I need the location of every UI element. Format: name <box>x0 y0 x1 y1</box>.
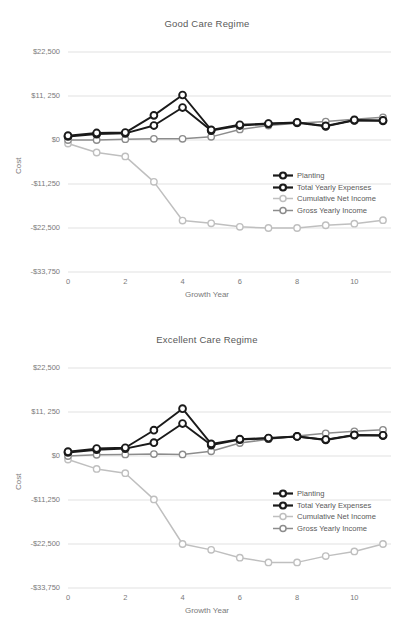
y-tick-label: $0 <box>6 135 60 144</box>
chart-panel-excellent-care: Excellent Care Regime Cost Growth Year P… <box>0 316 414 632</box>
legend-item-label: Planting <box>297 488 324 499</box>
data-point <box>265 120 272 127</box>
data-point <box>151 136 157 142</box>
data-point <box>208 220 214 226</box>
data-point <box>151 451 157 457</box>
data-point <box>122 470 128 476</box>
data-point <box>236 121 243 128</box>
legend-line-marker-icon <box>272 488 294 499</box>
data-point <box>322 436 329 443</box>
data-point <box>351 548 357 554</box>
x-tick-label: 4 <box>163 277 203 286</box>
data-point <box>265 225 271 231</box>
legend-item-label: Gross Yearly Income <box>297 523 367 534</box>
data-point <box>294 119 301 126</box>
data-point <box>151 439 158 446</box>
x-tick-label: 8 <box>277 277 317 286</box>
data-point <box>179 420 186 427</box>
data-point <box>380 217 386 223</box>
data-point <box>351 431 358 438</box>
x-tick-label: 0 <box>48 277 88 286</box>
data-point <box>208 126 215 133</box>
legend-item[interactable]: Planting <box>272 488 376 500</box>
y-tick-label: -$33,750 <box>6 583 60 592</box>
data-point <box>294 559 300 565</box>
data-point <box>323 222 329 228</box>
legend-item-label: Total Yearly Expenses <box>297 500 371 511</box>
data-point <box>265 435 272 442</box>
legend-item-label: Planting <box>297 170 324 181</box>
data-point <box>151 122 158 129</box>
legend-item[interactable]: Gross Yearly Income <box>272 205 376 217</box>
y-tick-label: $11, 250 <box>6 407 60 416</box>
y-tick-label: -$22,500 <box>6 223 60 232</box>
legend-item[interactable]: Cumulative Net Income <box>272 511 376 523</box>
legend-item[interactable]: Total Yearly Expenses <box>272 182 376 194</box>
data-point <box>179 451 185 457</box>
data-point <box>65 132 72 139</box>
legend-item-label: Total Yearly Expenses <box>297 182 371 193</box>
x-tick-label: 0 <box>48 593 88 602</box>
plot-area <box>0 0 414 316</box>
y-tick-label: -$33,750 <box>6 267 60 276</box>
plot-area <box>0 316 414 632</box>
data-point <box>208 547 214 553</box>
y-tick-label: -$22,500 <box>6 539 60 548</box>
data-point <box>351 117 358 124</box>
x-tick-label: 2 <box>105 593 145 602</box>
legend-item-label: Cumulative Net Income <box>297 511 376 522</box>
x-tick-label: 10 <box>334 593 374 602</box>
legend-item[interactable]: Planting <box>272 170 376 182</box>
legend-line-marker-icon <box>272 193 294 204</box>
chart-panel-good-care: Good Care Regime Cost Growth Year Planti… <box>0 0 414 316</box>
y-tick-label: $22,500 <box>6 47 60 56</box>
chart-legend: PlantingTotal Yearly ExpensesCumulative … <box>272 488 376 534</box>
legend-line-marker-icon <box>272 205 294 216</box>
data-point <box>122 153 128 159</box>
y-tick-label: $22,500 <box>6 363 60 372</box>
data-point <box>265 559 271 565</box>
series-total-yearly-expenses <box>65 104 387 140</box>
data-point <box>351 221 357 227</box>
data-point <box>65 448 72 455</box>
x-tick-label: 2 <box>105 277 145 286</box>
legend-item-label: Cumulative Net Income <box>297 193 376 204</box>
data-point <box>93 445 100 452</box>
x-tick-label: 4 <box>163 593 203 602</box>
data-point <box>179 104 186 111</box>
data-point <box>151 112 158 119</box>
data-point <box>380 541 386 547</box>
data-point <box>179 405 186 412</box>
data-point <box>93 466 99 472</box>
data-point <box>322 123 329 130</box>
data-point <box>151 179 157 185</box>
legend-line-marker-icon <box>272 511 294 522</box>
legend-item[interactable]: Cumulative Net Income <box>272 193 376 205</box>
data-point <box>151 427 158 434</box>
legend-item[interactable]: Gross Yearly Income <box>272 523 376 535</box>
data-point <box>151 496 157 502</box>
data-point <box>237 224 243 230</box>
data-point <box>122 444 129 451</box>
data-point <box>93 149 99 155</box>
legend-item-label: Gross Yearly Income <box>297 205 367 216</box>
data-point <box>93 130 100 137</box>
data-point <box>380 117 387 124</box>
y-tick-label: -$11,250 <box>6 495 60 504</box>
legend-line-marker-icon <box>272 170 294 181</box>
data-point <box>294 225 300 231</box>
data-point <box>208 440 215 447</box>
legend-item[interactable]: Total Yearly Expenses <box>272 500 376 512</box>
data-point <box>236 436 243 443</box>
data-point <box>179 541 185 547</box>
x-tick-label: 8 <box>277 593 317 602</box>
chart-legend: PlantingTotal Yearly ExpensesCumulative … <box>272 170 376 216</box>
data-point <box>122 129 129 136</box>
data-point <box>179 136 185 142</box>
series-planting <box>65 92 387 139</box>
legend-line-marker-icon <box>272 500 294 511</box>
legend-line-marker-icon <box>272 182 294 193</box>
data-point <box>380 432 387 439</box>
data-point <box>237 554 243 560</box>
x-tick-label: 6 <box>220 593 260 602</box>
